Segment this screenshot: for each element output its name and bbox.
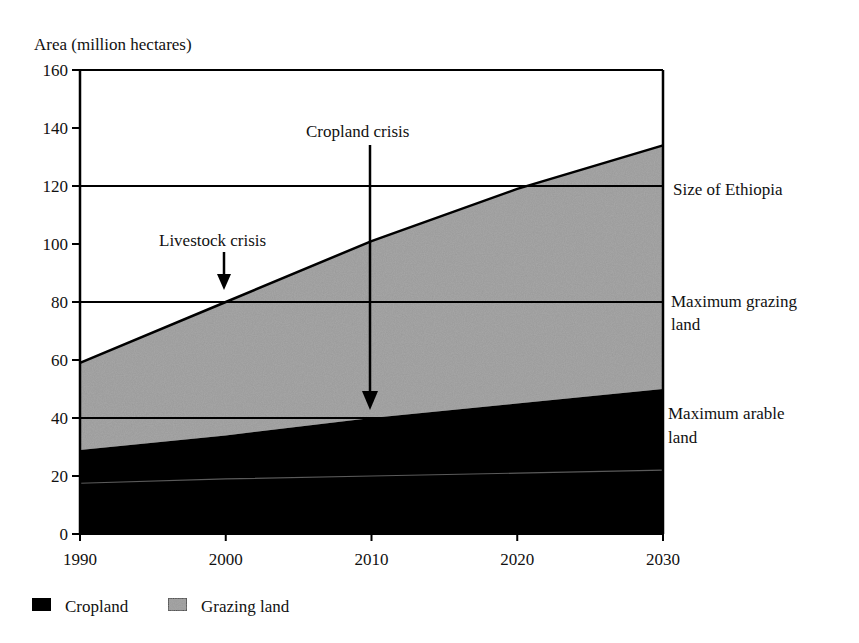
ref-label-ethiopia: Size of Ethiopia	[673, 180, 783, 199]
y-tick-label: 20	[51, 467, 68, 486]
x-tick-label: 2000	[209, 550, 243, 569]
ref-label-grazing-line1: Maximum grazing	[671, 292, 798, 311]
y-tick-label: 100	[43, 235, 69, 254]
annotation-livestock-crisis: Livestock crisis	[159, 231, 266, 250]
legend: Cropland Grazing land	[32, 597, 290, 616]
ref-label-arable-line1: Maximum arable	[668, 404, 785, 423]
x-tick-label: 2020	[500, 550, 534, 569]
y-tick-label: 120	[43, 177, 69, 196]
y-tick-label: 160	[43, 61, 69, 80]
y-tick-label: 60	[51, 351, 68, 370]
x-tick-label: 2030	[646, 550, 680, 569]
y-tick-label: 40	[51, 409, 68, 428]
legend-label-cropland: Cropland	[65, 597, 129, 616]
y-tick-label: 140	[43, 119, 69, 138]
ref-label-arable-line2: land	[668, 428, 698, 447]
y-tick-label: 80	[51, 293, 68, 312]
legend-swatch-cropland	[32, 598, 51, 611]
annotation-cropland-crisis: Cropland crisis	[306, 122, 409, 141]
arrow-down-icon	[217, 252, 231, 290]
x-tick-label: 1990	[63, 550, 97, 569]
y-axis-label: Area (million hectares)	[34, 35, 192, 54]
legend-swatch-grazing	[168, 598, 187, 611]
plot-areas	[80, 145, 663, 534]
ref-label-grazing-line2: land	[671, 315, 701, 334]
legend-label-grazing: Grazing land	[201, 597, 290, 616]
y-tick-label: 0	[60, 525, 69, 544]
x-tick-label: 2010	[355, 550, 389, 569]
area-chart: Area (million hectares) 0204060801001201…	[0, 0, 859, 643]
